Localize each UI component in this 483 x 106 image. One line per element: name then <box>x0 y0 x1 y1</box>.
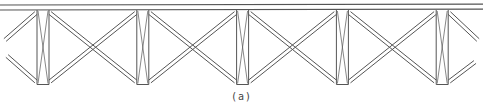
diagonal-member-partial <box>448 61 474 81</box>
diagonal-member-partial <box>6 14 37 41</box>
figure-caption: (a) <box>0 91 483 102</box>
diagonal-member-descending <box>51 12 137 81</box>
diagonal-member-ascending <box>348 12 434 81</box>
diagonal-member-ascending <box>249 12 335 81</box>
diagonal-member-partial <box>8 55 37 80</box>
diagonal-member-partial <box>450 12 479 39</box>
diagonal-member-descending <box>350 12 436 81</box>
diagonal-member-partial <box>450 63 476 83</box>
top-chord-upper-line <box>0 4 483 5</box>
diagonal-member-descending <box>49 14 135 83</box>
diagonal-member-descending <box>348 14 434 83</box>
diagonal-member-ascending <box>350 14 436 83</box>
diagonal-member-ascending <box>49 12 135 81</box>
diagonal-member-descending <box>249 14 335 83</box>
diagonal-member-ascending <box>251 14 337 83</box>
diagonal-member-descending <box>149 14 235 83</box>
diagonal-member-descending <box>151 12 237 81</box>
diagonal-member-partial <box>6 57 35 83</box>
diagonal-member-descending <box>251 12 337 81</box>
diagonal-member-ascending <box>151 14 237 83</box>
diagonal-member-ascending <box>51 14 137 83</box>
diagonal-member-partial <box>448 14 477 41</box>
top-chord-lower-line <box>0 9 483 10</box>
diagonal-member-partial <box>4 12 35 39</box>
truss-diagram <box>0 0 483 92</box>
diagonal-member-ascending <box>149 12 235 81</box>
